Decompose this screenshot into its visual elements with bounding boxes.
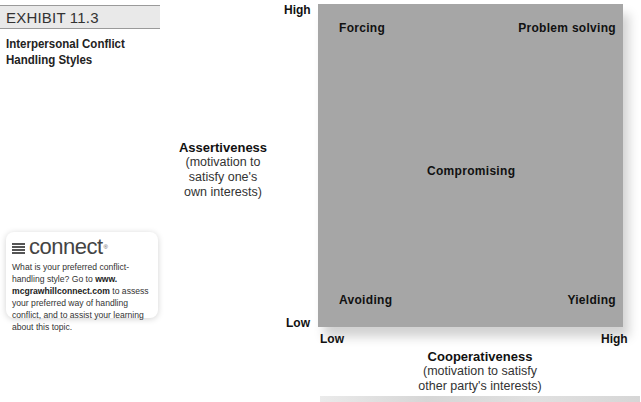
quadrant-forcing: Forcing [339,21,385,35]
registered-mark: ® [104,244,108,250]
x-axis-title: Cooperativeness (motivation to satisfy o… [410,349,550,394]
x-axis-title-main: Cooperativeness [410,349,550,364]
exhibit-number: EXHIBIT 11.3 [6,9,99,26]
connect-logo-icon [12,243,25,254]
x-axis-low-label: Low [320,332,344,346]
connect-link-part1[interactable]: www. [95,274,117,284]
y-axis-high-label: High [284,3,311,17]
conflict-style-grid: Forcing Problem solving Compromising Avo… [318,4,623,327]
x-axis-subtitle-1: (motivation to satisfy [410,364,550,379]
quadrant-avoiding: Avoiding [339,293,392,307]
cropped-caption-line [320,396,640,402]
y-axis-title: Assertiveness (motivation to satisfy one… [170,140,276,200]
connect-logo: connect ® [12,236,108,258]
y-axis-title-main: Assertiveness [170,140,276,155]
x-axis-high-label: High [601,332,628,346]
exhibit-title-line1: Interpersonal Conflict [6,36,153,52]
connect-link-part2[interactable]: mcgrawhillconnect.com [12,286,110,296]
connect-callout: connect ® What is your preferred conflic… [6,232,158,318]
y-axis-subtitle-1: (motivation to [170,155,276,170]
quadrant-yielding: Yielding [567,293,616,307]
quadrant-compromising: Compromising [427,164,515,178]
y-axis-subtitle-2: satisfy one's [170,170,276,185]
x-axis-subtitle-2: other party's interests) [410,379,550,394]
connect-logo-text: connect [29,236,103,258]
y-axis-subtitle-3: own interests) [170,185,276,200]
exhibit-title-line2: Handling Styles [6,52,153,68]
connect-description: What is your preferred conflict-handling… [12,261,157,333]
exhibit-header-bar: EXHIBIT 11.3 [0,5,160,29]
quadrant-problem-solving: Problem solving [518,21,616,35]
y-axis-low-label: Low [286,316,310,330]
exhibit-title: Interpersonal Conflict Handling Styles [6,36,153,68]
